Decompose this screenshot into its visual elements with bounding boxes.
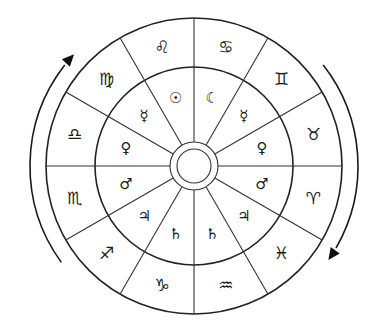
zodiac-wheel-diagram: ♋︎♊︎♉︎♈︎♓︎♒︎♑︎♐︎♏︎♎︎♍︎♌︎ ☾︎☿︎♀︎♂︎♃︎♄︎♄︎♃… xyxy=(0,0,387,330)
zodiac-cancer-icon: ♋︎ xyxy=(218,37,233,57)
zodiac-gemini-icon: ♊︎ xyxy=(274,69,289,89)
arrow-down-icon xyxy=(328,247,339,260)
sector-dividers xyxy=(46,18,342,314)
planet-jupiter-icon: ♃︎ xyxy=(237,207,250,225)
planet-mercury-icon: ☿︎ xyxy=(239,107,248,125)
planet-moon-icon: ☾︎ xyxy=(206,89,219,107)
zodiac-scorpio-icon: ♏︎ xyxy=(67,188,82,208)
hub-inner-circle xyxy=(177,149,211,183)
zodiac-capricorn-icon: ♑︎ xyxy=(154,275,169,295)
zodiac-taurus-icon: ♉︎ xyxy=(306,124,321,144)
left-arrow-arc xyxy=(30,65,65,262)
zodiac-pisces-icon: ♓︎ xyxy=(274,243,289,263)
planet-saturn-icon: ♄︎ xyxy=(206,225,219,243)
planet-venus-icon: ♀︎ xyxy=(257,139,268,157)
zodiac-aquarius-icon: ♒︎ xyxy=(218,275,233,295)
zodiac-libra-icon: ♎︎ xyxy=(67,124,82,144)
zodiac-sagittarius-icon: ♐︎ xyxy=(99,243,114,263)
planet-saturn-icon: ♄︎ xyxy=(169,225,182,243)
arrow-up-icon xyxy=(62,54,74,67)
planet-mars-icon: ♂︎ xyxy=(255,175,268,193)
planet-venus-icon: ♀︎ xyxy=(120,139,131,157)
right-arrow-arc xyxy=(323,65,358,248)
zodiac-aries-icon: ♈︎ xyxy=(306,188,321,208)
planet-mars-icon: ♂︎ xyxy=(119,175,132,193)
zodiac-virgo-icon: ♍︎ xyxy=(99,69,114,89)
planet-mercury-icon: ☿︎ xyxy=(140,107,149,125)
planet-jupiter-icon: ♃︎ xyxy=(137,207,150,225)
zodiac-leo-icon: ♌︎ xyxy=(154,37,169,57)
planet-sun-icon: ☉︎ xyxy=(169,89,182,107)
